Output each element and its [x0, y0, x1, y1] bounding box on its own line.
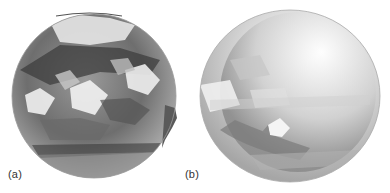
sphere-a-render: [0, 0, 190, 193]
panel-b: (b): [190, 0, 390, 193]
panel-label-b: (b): [185, 168, 199, 180]
sphere-b-render: [190, 0, 390, 193]
panel-a: (a): [0, 0, 190, 193]
panel-label-a: (a): [8, 168, 22, 180]
